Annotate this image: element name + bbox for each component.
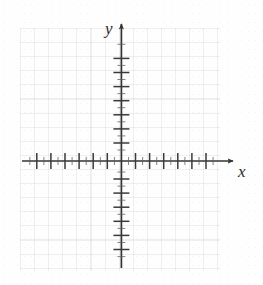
y-axis-label: y (105, 20, 113, 37)
x-axis (22, 153, 233, 169)
y-axis (113, 24, 129, 268)
x-axis-label: x (238, 163, 246, 180)
axes-svg (0, 0, 263, 285)
coordinate-plane-figure: y x (0, 0, 263, 285)
